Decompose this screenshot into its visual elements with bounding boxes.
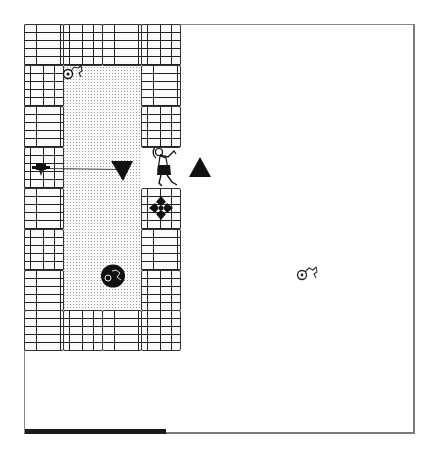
- up-triangle-marker-icon[interactable]: [188, 156, 212, 178]
- health-bar: [25, 429, 166, 434]
- wall-block: [24, 229, 64, 271]
- wall-block: [141, 106, 181, 148]
- wall-block: [24, 310, 64, 351]
- rope-coil-outside-icon[interactable]: [296, 264, 320, 282]
- wall-block: [24, 65, 64, 107]
- wall-block: [141, 310, 181, 351]
- wall-block: [141, 65, 181, 107]
- wall-block: [63, 24, 103, 66]
- wall-block: [102, 24, 142, 66]
- wall-block: [24, 188, 64, 230]
- down-triangle-marker-icon[interactable]: [111, 160, 134, 182]
- rope-coil-icon[interactable]: [62, 64, 84, 80]
- wall-block: [141, 229, 181, 271]
- adventurer-player-icon[interactable]: [148, 145, 182, 189]
- diamond-cross-ornament-icon: [148, 195, 174, 221]
- wall-block: [102, 310, 142, 351]
- wall-block: [24, 106, 64, 148]
- wall-block: [141, 270, 181, 311]
- wall-block: [63, 310, 103, 351]
- wall-block: [24, 270, 64, 311]
- arrow-trap-icon: [31, 158, 123, 182]
- wall-block: [24, 24, 64, 66]
- boulder-icon[interactable]: [99, 263, 127, 289]
- wall-block: [141, 24, 181, 66]
